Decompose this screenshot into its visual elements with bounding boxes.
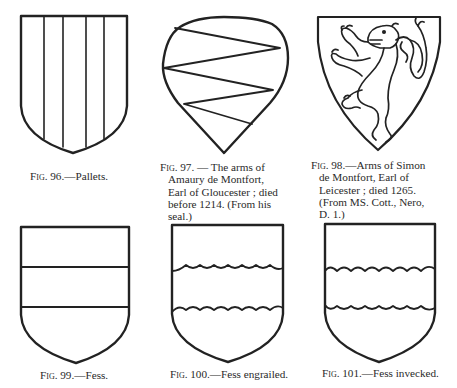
shield-amaury-de-montfort xyxy=(163,17,288,153)
caption-line: before 1214. (From his xyxy=(160,198,293,210)
caption-text: —Fess. xyxy=(74,369,108,381)
caption-line: de Montfort, Earl of xyxy=(311,171,447,183)
fig-number: Fig. 101. xyxy=(322,367,362,379)
caption-line: —Arms of Simon xyxy=(345,159,425,171)
shield-simon-de-montfort xyxy=(318,17,440,150)
shield-pallets xyxy=(21,16,127,153)
caption-fig-98: Fig. 98.—Arms of Simon de Montfort, Earl… xyxy=(311,159,447,220)
caption-fig-100: Fig. 100.—Fess engrailed. xyxy=(170,368,288,380)
fig-number: Fig. 100. xyxy=(170,368,210,380)
caption-fig-99: Fig. 99.—Fess. xyxy=(40,369,108,381)
caption-line: Amaury de Montfort, xyxy=(160,173,293,185)
caption-fig-97: Fig. 97. — The arms of Amaury de Montfor… xyxy=(160,161,293,222)
fig-number: Fig. 99. xyxy=(40,369,74,381)
caption-text: —Fess invecked. xyxy=(362,367,439,379)
shield-fess xyxy=(21,227,129,363)
fig-number: Fig. 97. xyxy=(160,161,194,173)
caption-line: Earl of Gloucester ; died xyxy=(160,186,293,198)
caption-line: — The arms of xyxy=(197,161,265,173)
caption-text: —Fess engrailed. xyxy=(210,368,288,380)
caption-line: Leicester ; died 1265. xyxy=(311,184,447,196)
fig-number: Fig. 96. xyxy=(30,170,64,182)
fig-number: Fig. 98. xyxy=(311,159,345,171)
caption-line: D. 1.) xyxy=(311,208,447,220)
caption-line: seal.) xyxy=(160,210,293,222)
caption-fig-96: Fig. 96.—Pallets. xyxy=(30,170,108,182)
caption-text: —Pallets. xyxy=(64,170,108,182)
shield-fess-engrailed xyxy=(172,225,283,362)
caption-fig-101: Fig. 101.—Fess invecked. xyxy=(322,367,439,379)
shield-fess-invecked xyxy=(325,224,435,362)
caption-line: (From MS. Cott., Nero, xyxy=(311,196,447,208)
